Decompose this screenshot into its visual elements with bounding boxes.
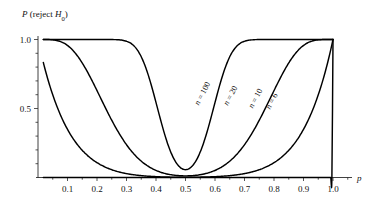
x-tick-label-0.6: 0.6 [209, 184, 221, 194]
y-tick-label-1.0: 1.0 [20, 35, 32, 45]
power-curves [43, 40, 333, 188]
x-axis-tick-labels: 0.10.20.30.40.50.60.70.80.91.0 [62, 184, 339, 194]
y-axis-tick-labels: 0.51.0 [20, 35, 32, 114]
curve-label-n-20: n = 20 [222, 84, 240, 107]
y-axis-major-ticks [34, 40, 38, 109]
x-tick-label-1.0: 1.0 [327, 184, 339, 194]
curve-label-n-10: n = 10 [247, 87, 265, 110]
axes [36, 36, 352, 178]
x-tick-label-0.3: 0.3 [121, 184, 133, 194]
x-tick-label-0.4: 0.4 [150, 184, 162, 194]
x-tick-label-0.2: 0.2 [91, 184, 102, 194]
x-tick-label-0.9: 0.9 [298, 184, 310, 194]
curve-label-n-100: n = 100 [193, 80, 213, 106]
curve-label-n-6: n = 6 [264, 92, 280, 111]
curve-n-10 [43, 40, 333, 178]
power-curve-figure: 0.10.20.30.40.50.60.70.80.91.0 0.51.0 n … [0, 0, 373, 213]
x-tick-label-0.8: 0.8 [268, 184, 280, 194]
y-axis-title: P (reject H0) [21, 9, 68, 22]
chart-canvas: 0.10.20.30.40.50.60.70.80.91.0 0.51.0 n … [0, 0, 373, 213]
y-tick-label-0.5: 0.5 [20, 104, 32, 114]
x-axis-title: p [356, 173, 362, 183]
x-tick-label-0.1: 0.1 [62, 184, 73, 194]
x-tick-label-0.7: 0.7 [239, 184, 251, 194]
x-tick-label-0.5: 0.5 [180, 184, 192, 194]
curve-labels: n = 100n = 20n = 10n = 6 [193, 80, 280, 110]
